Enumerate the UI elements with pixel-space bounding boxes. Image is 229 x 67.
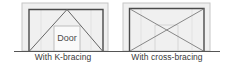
door-label: Door <box>57 33 77 43</box>
k-bracing-panel <box>14 3 121 52</box>
cross-bracing-panel <box>114 3 220 52</box>
caption-cross-bracing: With cross-bracing <box>131 52 202 62</box>
wall-panel-background <box>123 3 210 51</box>
caption-k-bracing: With K-bracing <box>35 52 91 62</box>
